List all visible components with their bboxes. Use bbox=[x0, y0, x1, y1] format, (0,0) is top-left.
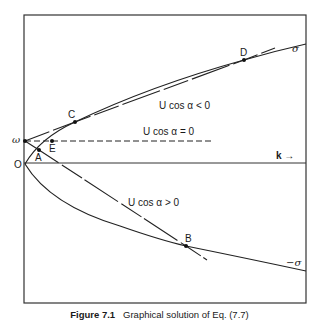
point-c bbox=[73, 120, 77, 124]
figure-frame bbox=[24, 15, 306, 303]
sigma-label: σ bbox=[292, 44, 299, 54]
k-axis-label: k → bbox=[276, 151, 294, 161]
neg-sigma-label: −σ bbox=[286, 258, 301, 268]
point-d bbox=[242, 58, 246, 62]
ucos-zero-label: U cos α = 0 bbox=[143, 127, 194, 137]
point-d-label: D bbox=[240, 48, 247, 58]
point-b bbox=[184, 244, 188, 248]
point-b-label: B bbox=[185, 234, 192, 244]
omega-label: ω bbox=[12, 135, 20, 145]
origin-label: O bbox=[14, 160, 22, 170]
ucos-pos-label: U cos α > 0 bbox=[128, 198, 179, 208]
figure-caption: Figure 7.1 Graphical solution of Eq. (7.… bbox=[0, 309, 319, 320]
caption-prefix: Figure 7.1 bbox=[70, 309, 115, 320]
caption-text: Graphical solution of Eq. (7.7) bbox=[123, 309, 249, 320]
point-e-label: E bbox=[49, 144, 56, 154]
point-omega bbox=[23, 139, 27, 143]
ucos-neg-label: U cos α < 0 bbox=[159, 101, 210, 111]
figure-canvas bbox=[0, 0, 319, 327]
neg-sigma-curve bbox=[25, 164, 306, 271]
line-ucos-pos bbox=[25, 141, 207, 260]
point-c-label: C bbox=[68, 110, 75, 120]
point-a-label: A bbox=[35, 153, 42, 163]
